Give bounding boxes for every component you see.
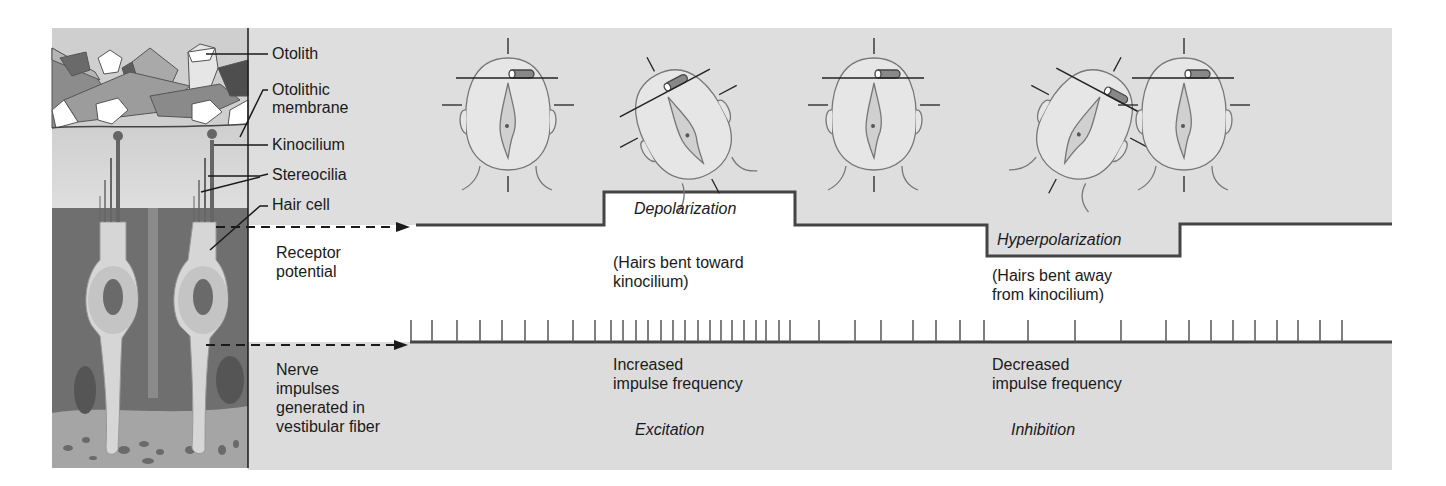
label-excitation: Excitation — [635, 420, 704, 439]
label-stereocilia: Stereocilia — [272, 165, 347, 184]
label-kinocilium: Kinocilium — [272, 135, 345, 154]
label-hyperpolarization-note-1: (Hairs bent away — [992, 266, 1112, 285]
label-otolithic-membrane-1: Otolithic — [272, 80, 330, 99]
hair-cell-illustration — [52, 28, 268, 468]
label-increased-1: Increased — [613, 355, 683, 374]
label-decreased-2: impulse frequency — [992, 374, 1122, 393]
head-position-icon — [1118, 38, 1250, 192]
label-increased-2: impulse frequency — [613, 374, 743, 393]
head-position-icon — [808, 38, 940, 192]
receptor-potential-trace — [416, 192, 1392, 256]
label-depolarization-note-2: kinocilium) — [613, 272, 689, 291]
label-depolarization: Depolarization — [634, 199, 736, 218]
label-otolithic-membrane-2: membrane — [272, 98, 348, 117]
label-depolarization-note-1: (Hairs bent toward — [613, 253, 744, 272]
label-hyperpolarization-note-2: from kinocilium) — [992, 285, 1104, 304]
label-hair-cell: Hair cell — [272, 195, 330, 214]
head-position-icon — [442, 38, 574, 192]
label-otolith: Otolith — [272, 44, 318, 63]
label-hyperpolarization: Hyperpolarization — [997, 230, 1122, 249]
nerve-impulse-trace — [410, 320, 1392, 342]
label-nerve-1: Nerve — [276, 360, 319, 379]
label-nerve-2: impulses — [276, 379, 339, 398]
label-inhibition: Inhibition — [1011, 420, 1075, 439]
label-nerve-3: generated in — [276, 398, 365, 417]
label-nerve-4: vestibular fiber — [276, 417, 380, 436]
label-receptor-potential-1: Receptor — [276, 243, 341, 262]
label-decreased-1: Decreased — [992, 355, 1069, 374]
diagram-artwork — [0, 0, 1446, 486]
label-receptor-potential-2: potential — [276, 262, 337, 281]
